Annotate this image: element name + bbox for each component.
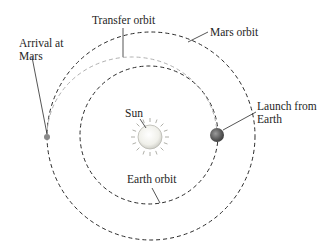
launch-leader xyxy=(223,112,256,130)
transfer-orbit-label: Transfer orbit xyxy=(92,14,155,27)
arrival-leader xyxy=(32,57,47,134)
launch-label-line1: Launch from xyxy=(257,100,317,113)
hohmann-transfer-diagram: Transfer orbit Mars orbit Arrival at Mar… xyxy=(0,0,331,252)
sun-label: Sun xyxy=(125,107,143,120)
launch-from-earth-label: Launch from Earth xyxy=(257,100,317,125)
earth-orbit-leader xyxy=(152,188,160,203)
arrival-at-mars-label: Arrival at Mars xyxy=(19,37,63,62)
mars-planet-icon xyxy=(44,134,50,140)
arrival-label-line2: Mars xyxy=(19,50,63,63)
transfer-orbit xyxy=(47,57,217,137)
sun-icon xyxy=(131,118,169,156)
mars-orbit-label: Mars orbit xyxy=(210,26,258,39)
mars-orbit-leader xyxy=(188,32,208,42)
arrival-label-line1: Arrival at xyxy=(19,37,63,50)
earth-planet-icon xyxy=(210,128,224,142)
launch-label-line2: Earth xyxy=(257,113,317,126)
earth-orbit-label: Earth orbit xyxy=(127,173,177,186)
